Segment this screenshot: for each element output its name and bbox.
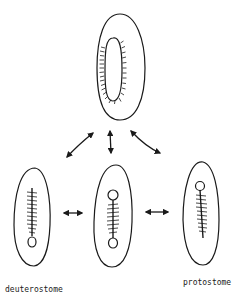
arrows-top — [67, 131, 160, 157]
deuterostome-anus-loop — [28, 237, 36, 247]
ancestor-blastopore-slit — [105, 38, 122, 101]
amphistome-anus-loop — [109, 238, 118, 248]
arrow-ancestor-deuterostome — [67, 133, 93, 157]
deuterostome-embryo — [14, 168, 50, 266]
protostome-mouth-loop — [196, 182, 205, 191]
arrow-ancestor-protostome — [131, 131, 160, 153]
deuterostome-label: deuterostome — [5, 285, 63, 294]
amphistome-embryo — [94, 165, 132, 267]
ancestor-embryo — [97, 14, 145, 120]
protostome-embryo — [183, 162, 219, 265]
amphistome-mouth-loop — [108, 190, 118, 200]
arrow-ancestor-amphistome — [110, 131, 111, 153]
protostome-label: protostome — [183, 278, 231, 287]
diagram-canvas — [0, 0, 244, 306]
ancestor-outline — [97, 14, 145, 120]
protostome-gut — [200, 190, 203, 238]
